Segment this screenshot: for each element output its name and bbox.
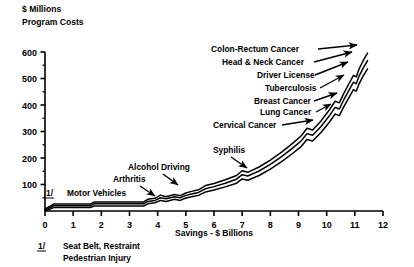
annotation-arrow-9 (140, 186, 155, 196)
curve-upper-bound (45, 53, 368, 209)
y-axis-title: Program Costs (22, 17, 84, 27)
annotation-label: Syphilis (213, 145, 245, 155)
chart-figure: $ Millions Program Costs 100200300400500… (0, 0, 414, 267)
axis-unit-label: $ Millions (22, 4, 61, 14)
annotation-label: Arthritis (113, 174, 146, 184)
y-tick-label: 200 (22, 154, 37, 164)
annotation-label: Alcohol Driving (128, 162, 190, 172)
annotation-label: Driver License (257, 70, 315, 80)
annotation-label: Colon-Rectum Cancer (211, 44, 300, 54)
annotation-label: Lung Cancer (260, 107, 312, 117)
curve-footnote-marker: 1/ (46, 188, 54, 198)
annotation-arrow-8 (163, 174, 178, 185)
chart-header: $ Millions Program Costs (22, 4, 84, 27)
annotation-arrow-7 (231, 157, 247, 168)
x-tick-label: 0 (42, 220, 47, 230)
annotation-arrow-6 (282, 120, 313, 125)
footnote-line-2: Pedestrian Injury (63, 253, 131, 263)
chart-footnote: 1/ Seat Belt, Restraint Pedestrian Injur… (37, 241, 140, 263)
cost-savings-curve-chart: $ Millions Program Costs 100200300400500… (0, 0, 414, 267)
y-tick-label: 600 (22, 48, 37, 58)
annotation-arrow-3 (320, 75, 344, 88)
annotation-label: Motor Vehicles (67, 188, 126, 198)
annotation-arrow-4 (314, 93, 337, 101)
footnote-line-1: Seat Belt, Restraint (63, 241, 140, 251)
x-tick-label: 8 (268, 220, 273, 230)
annotation-label: Cervical Cancer (213, 120, 277, 130)
annotation-labels: Colon-Rectum CancerHead & Neck CancerDri… (67, 44, 317, 198)
annotation-arrow-1 (314, 52, 352, 62)
y-tick-label: 100 (22, 180, 37, 190)
x-tick-label: 10 (322, 220, 332, 230)
annotation-label: Breast Cancer (254, 96, 312, 106)
y-axis-tick-labels: 100200300400500600 (22, 48, 37, 191)
annotation-arrow-2 (315, 62, 348, 75)
x-axis-title: Savings - $ Billions (175, 228, 253, 238)
y-tick-label: 300 (22, 127, 37, 137)
annotation-arrow-0 (318, 45, 357, 49)
y-tick-label: 400 (22, 101, 37, 111)
x-tick-label: 1 (71, 220, 76, 230)
annotation-label: Tuberculosis (265, 83, 317, 93)
x-tick-label: 2 (99, 220, 104, 230)
x-tick-label: 9 (296, 220, 301, 230)
x-tick-label: 3 (127, 220, 132, 230)
y-tick-label: 500 (22, 74, 37, 84)
footnote-marker: 1/ (38, 241, 46, 251)
annotation-label: Head & Neck Cancer (222, 57, 305, 67)
x-tick-label: 11 (350, 220, 360, 230)
x-tick-label: 12 (378, 220, 388, 230)
x-tick-label: 4 (155, 220, 160, 230)
